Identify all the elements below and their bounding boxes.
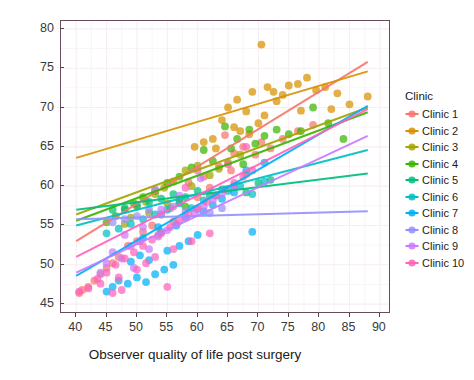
legend-key-swatch-icon (404, 239, 419, 253)
scatter-point (255, 119, 263, 127)
scatter-point (233, 96, 241, 104)
y-tick-label: 75 (10, 60, 54, 74)
scatter-point (194, 231, 202, 239)
scatter-point (133, 273, 141, 281)
scatter-point (121, 255, 129, 263)
y-tick-mark (60, 146, 64, 147)
legend-item-label: Clinic 10 (422, 257, 464, 269)
scatter-point (97, 280, 105, 288)
scatter-point (169, 261, 177, 269)
legend-key-swatch-icon (404, 256, 419, 270)
scatter-point (115, 273, 123, 281)
scatter-point (200, 146, 208, 154)
legend-key-swatch-icon (404, 206, 419, 220)
y-tick-label: 45 (10, 296, 54, 310)
scatter-point (200, 138, 208, 146)
legend-item-label: Clinic 6 (422, 191, 458, 203)
legend-title: Clinic (405, 90, 474, 102)
x-tick-mark (349, 313, 350, 317)
legend-item[interactable]: Clinic 9 (404, 238, 474, 255)
scatter-point (261, 132, 269, 140)
scatter-point (121, 215, 129, 223)
regression-line (76, 71, 368, 158)
scatter-point (242, 143, 250, 151)
legend-key-swatch-icon (404, 124, 419, 138)
y-tick-label: 50 (10, 257, 54, 271)
scatter-point (346, 100, 354, 108)
scatter-point (221, 131, 229, 139)
legend: Clinic Clinic 1Clinic 2Clinic 3Clinic 4C… (404, 90, 474, 271)
scatter-point (142, 259, 150, 267)
x-tick-mark (166, 313, 167, 317)
scatter-point (270, 88, 278, 96)
legend-item-label: Clinic 4 (422, 158, 458, 170)
scatter-point (212, 145, 220, 153)
scatter-point (206, 229, 214, 237)
scatter-point (84, 285, 92, 293)
scatter-point (285, 82, 293, 90)
legend-item-label: Clinic 5 (422, 174, 458, 186)
x-axis-ticks: 4045505560657075808590 (60, 313, 390, 343)
x-tick-mark (227, 313, 228, 317)
legend-item[interactable]: Clinic 8 (404, 222, 474, 239)
scatter-point (297, 107, 305, 115)
legend-item-label: Clinic 9 (422, 240, 458, 252)
scatter-point (133, 212, 141, 220)
x-axis-title: Observer quality of life post surgery (0, 347, 390, 362)
scatter-point (236, 127, 244, 135)
y-tick-mark (60, 28, 64, 29)
legend-item[interactable]: Clinic 5 (404, 172, 474, 189)
scatter-point (209, 135, 217, 143)
scatter-point (124, 280, 132, 288)
scatter-point (142, 278, 150, 286)
scatter-point (151, 253, 159, 261)
legend-item-label: Clinic 3 (422, 141, 458, 153)
legend-item[interactable]: Clinic 6 (404, 189, 474, 206)
legend-key-swatch-icon (404, 173, 419, 187)
legend-item[interactable]: Clinic 4 (404, 156, 474, 173)
scatter-point (169, 245, 177, 253)
legend-item[interactable]: Clinic 1 (404, 106, 474, 123)
scatter-point (251, 140, 259, 148)
scatter-point (309, 104, 317, 112)
y-tick-label: 60 (10, 178, 54, 192)
legend-item-label: Clinic 1 (422, 108, 458, 120)
legend-item[interactable]: Clinic 7 (404, 205, 474, 222)
scatter-point (221, 122, 229, 130)
y-tick-mark (60, 303, 64, 304)
scatter-point (75, 288, 83, 296)
scatter-point (182, 184, 190, 192)
y-tick-mark (60, 224, 64, 225)
scatter-point (340, 135, 348, 143)
y-tick-mark (60, 107, 64, 108)
y-tick-label: 70 (10, 100, 54, 114)
legend-item-label: Clinic 7 (422, 207, 458, 219)
legend-item[interactable]: Clinic 2 (404, 123, 474, 140)
x-tick-mark (318, 313, 319, 317)
scatter-point (258, 41, 266, 49)
legend-key-swatch-icon (404, 223, 419, 237)
scatter-point (103, 269, 111, 277)
scatter-point (273, 126, 281, 134)
scatter-point (261, 111, 269, 119)
x-tick-mark (75, 313, 76, 317)
y-axis-ticks: 4550556065707580 (6, 20, 54, 313)
scatter-point (224, 104, 232, 112)
scatter-point (112, 261, 120, 269)
x-tick-label: 90 (359, 320, 399, 334)
x-tick-mark (288, 313, 289, 317)
legend-key-swatch-icon (404, 190, 419, 204)
legend-item[interactable]: Clinic 3 (404, 139, 474, 156)
scatter-point (248, 228, 256, 236)
scatter-point (248, 88, 256, 96)
y-tick-label: 65 (10, 139, 54, 153)
scatter-point (191, 143, 199, 151)
scatter-point (115, 225, 123, 233)
scatter-point (364, 93, 372, 101)
legend-item[interactable]: Clinic 10 (404, 255, 474, 272)
plot-canvas (61, 21, 389, 312)
scatter-point (188, 237, 196, 245)
y-tick-label: 55 (10, 217, 54, 231)
legend-items: Clinic 1Clinic 2Clinic 3Clinic 4Clinic 5… (404, 106, 474, 271)
y-tick-mark (60, 185, 64, 186)
